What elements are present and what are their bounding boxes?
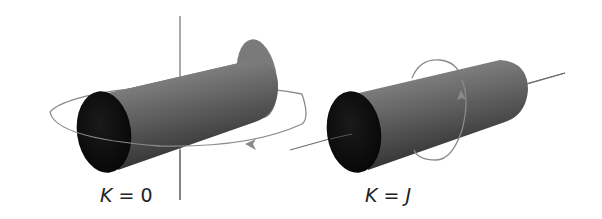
label-right-eq: =	[377, 184, 405, 206]
label-right-var: K	[365, 184, 377, 206]
figure-left	[50, 16, 306, 200]
label-left-val: 0	[140, 184, 152, 206]
label-left-var: K	[100, 184, 112, 206]
diagram-canvas	[0, 0, 602, 219]
label-right: K = J	[365, 184, 411, 206]
cylinder-left	[72, 37, 283, 177]
figure-right	[290, 60, 565, 177]
label-left: K = 0	[100, 184, 153, 206]
label-right-val: J	[405, 184, 411, 206]
label-left-eq: =	[112, 184, 140, 206]
